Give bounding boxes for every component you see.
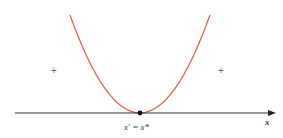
x-axis-label: x bbox=[265, 117, 270, 127]
axis-arrow-icon bbox=[268, 110, 276, 116]
vertex-label: x' = x* bbox=[124, 122, 149, 132]
diagram-canvas bbox=[0, 0, 283, 138]
vertex-point bbox=[138, 111, 143, 116]
parabola-curve bbox=[70, 15, 210, 113]
left-region-sign: + bbox=[51, 66, 57, 76]
right-region-sign: + bbox=[218, 66, 224, 76]
